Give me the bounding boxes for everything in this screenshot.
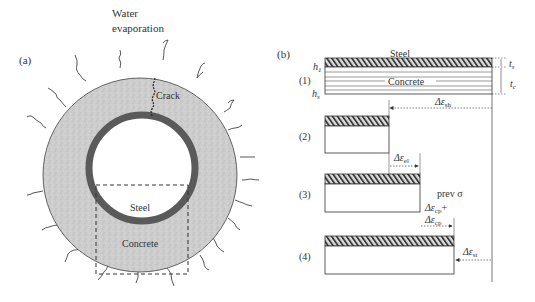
- stage4-label: (4): [299, 251, 311, 263]
- stage2-label: (2): [299, 131, 311, 143]
- panel-a-label: (a): [19, 54, 32, 67]
- water-evaporation-label-1: Water: [112, 7, 138, 19]
- figure: (a) Water evaporation: [0, 0, 535, 302]
- steel-label: Steel: [130, 202, 150, 213]
- stage3-steel: [325, 174, 420, 184]
- stage1-steel: [325, 58, 492, 67]
- stage3-concrete: [325, 184, 420, 212]
- panel-b: (b) Steel Concrete h1 hs (1) ts tc: [277, 48, 517, 282]
- creep-label-2: Δεcp: [424, 214, 442, 227]
- panel-a: (a) Water evaporation: [19, 7, 259, 286]
- ts-label: ts: [509, 58, 515, 71]
- stage1-label: (1): [299, 75, 311, 87]
- tc-label: tc: [510, 78, 517, 91]
- panel-b-label: (b): [277, 48, 290, 61]
- crack-label: Crack: [156, 90, 180, 101]
- concrete-label: Concrete: [122, 238, 159, 249]
- elastic-label: Δεel: [393, 152, 409, 165]
- water-evaporation-label-2: evaporation: [112, 22, 164, 34]
- stage4-concrete: [325, 246, 454, 274]
- stage1-concrete-label: Concrete: [388, 76, 425, 87]
- stage2-steel: [325, 116, 389, 126]
- shrinkage-label: Δεsh: [434, 96, 452, 109]
- hs-label: hs: [312, 88, 320, 101]
- stage1-steel-label: Steel: [390, 48, 410, 59]
- stage4-steel: [325, 236, 454, 246]
- prev-sigma-label: prev σ: [437, 188, 463, 199]
- stage3-label: (3): [299, 189, 311, 201]
- stress-label: Δεst: [462, 246, 478, 259]
- h1-label: h1: [313, 61, 322, 74]
- thickness-dimensions: [492, 58, 506, 94]
- stage2-concrete: [325, 126, 389, 153]
